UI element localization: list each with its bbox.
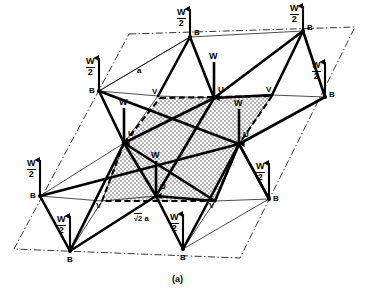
site-node-U-mid-left: [122, 141, 127, 146]
moment-label-w-half-B-left-lower: W 2: [26, 159, 37, 179]
site-node-B-bot-center: [181, 247, 185, 251]
site-label-V-lower-right: V: [209, 202, 214, 210]
w-half-numerator: W: [255, 162, 266, 171]
w-half-denominator: 2: [313, 72, 320, 81]
site-label-B-left-upper: B: [89, 87, 95, 95]
w-half-numerator: W: [289, 4, 300, 13]
site-label-B-bot-center: B: [180, 254, 186, 262]
site-label-V-upper-left: V: [152, 88, 157, 96]
site-label-U-bot-center: U: [160, 183, 166, 191]
site-node-B-left-lower: [38, 194, 42, 198]
site-label-B-right-upper: B: [329, 91, 335, 99]
moment-label-w-half-B-bot-left: W 2: [56, 215, 67, 235]
site-label-B-right-lower: B: [273, 195, 279, 203]
site-node-B-left-upper: [97, 89, 101, 93]
site-label-U-mid-right: U: [243, 131, 249, 139]
moment-label-w-U-mid-left: W: [119, 98, 128, 107]
lattice-diagram-svg: [0, 0, 367, 291]
site-label-U-mid-left: U: [128, 130, 134, 138]
site-node-U-bot-center: [154, 194, 159, 199]
w-half-numerator: W: [176, 8, 187, 17]
w-half-numerator: W: [26, 159, 37, 168]
w-half-denominator: 2: [257, 173, 264, 182]
site-label-B-top-right: B: [307, 24, 313, 32]
w-half-numerator: W: [311, 61, 322, 70]
w-half-numerator: W: [169, 213, 180, 222]
site-label-B-top-center: B: [194, 29, 200, 37]
moment-label-w-half-B-top-center: W 2: [176, 8, 187, 28]
moment-label-w-half-B-right-lower: W 2: [255, 162, 266, 182]
w-half-numerator: W: [56, 215, 67, 224]
w-half-denominator: 2: [178, 19, 185, 28]
site-node-B-right-upper: [323, 95, 327, 99]
site-node-B-right-lower: [267, 197, 271, 201]
site-node-U-top-center: [212, 96, 217, 101]
site-node-B-top-right: [301, 29, 305, 33]
w-half-denominator: 2: [291, 15, 298, 24]
w-half-numerator: W: [85, 57, 96, 66]
moment-label-w-half-B-bot-center: W 2: [169, 213, 180, 233]
moment-label-w-half-B-left-upper: W 2: [85, 57, 96, 77]
site-node-B-top-center: [188, 35, 192, 39]
site-node-U-mid-right: [237, 142, 242, 147]
moment-label-w-half-B-right-upper: W 2: [311, 61, 322, 81]
edge-label-sqrt2-a: √2 a: [134, 213, 149, 223]
moment-label-w-half-B-top-right: W 2: [289, 4, 300, 24]
site-label-U-top-center: U: [218, 86, 224, 94]
moment-label-w-U-bot-center: W: [151, 151, 160, 160]
site-label-V-upper-right: V: [266, 86, 271, 94]
w-half-denominator: 2: [28, 170, 35, 179]
w-half-denominator: 2: [58, 226, 65, 235]
w-half-denominator: 2: [171, 224, 178, 233]
site-label-V-lower-left: V: [96, 202, 101, 210]
site-label-B-left-lower: B: [30, 192, 36, 200]
site-label-B-bot-left: B: [67, 256, 73, 264]
w-half-denominator: 2: [87, 68, 94, 77]
edge-label-a: a: [137, 67, 141, 75]
moment-label-w-U-mid-right: W: [234, 99, 243, 108]
site-node-B-bot-left: [68, 249, 72, 253]
moment-label-w-U-top-center: W: [209, 52, 218, 61]
figure-caption: (a): [172, 275, 183, 284]
lattice-figure: W 2 W 2 W 2 W 2 W 2 W 2 W 2 W 2 W W W: [0, 0, 367, 291]
sqrt2-operand: a: [144, 214, 148, 223]
